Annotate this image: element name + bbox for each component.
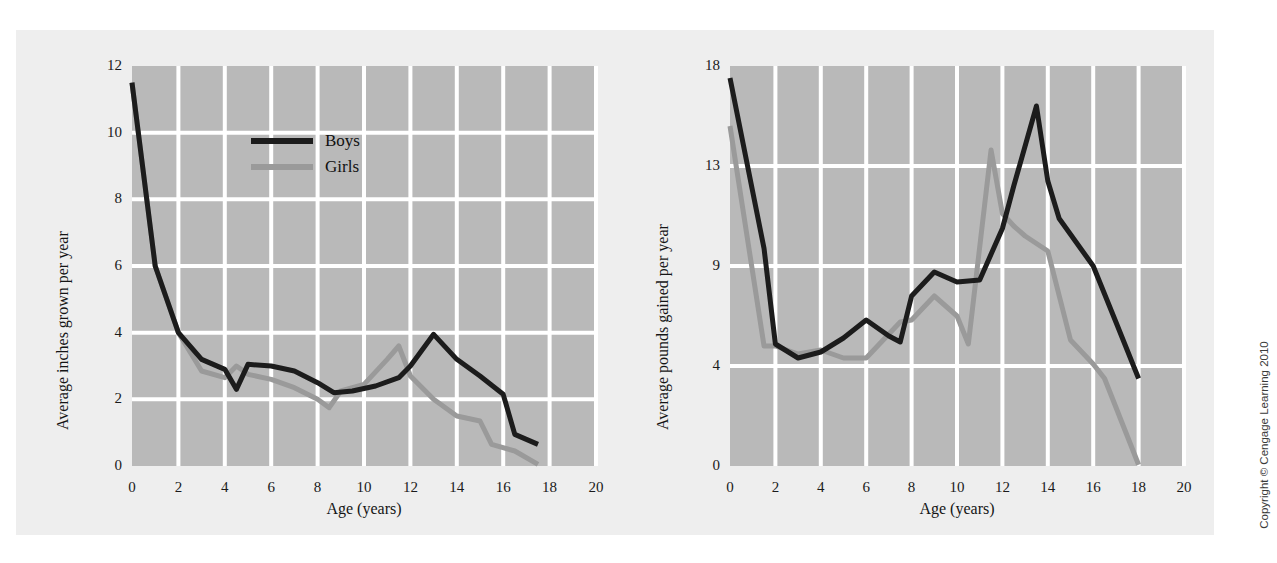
legend-entry-boys: Boys xyxy=(251,128,360,154)
chart-height-velocity: Average inches grown per year Age (years… xyxy=(16,30,616,535)
y-tick-label: 6 xyxy=(84,258,122,273)
y-tick-label: 0 xyxy=(84,458,122,473)
x-tick-label: 14 xyxy=(1028,480,1068,495)
x-tick-label: 10 xyxy=(937,480,977,495)
legend-label-girls: Girls xyxy=(325,157,359,177)
chart-weight-velocity: Average pounds gained per year Age (year… xyxy=(624,30,1214,535)
x-tick-label: 8 xyxy=(892,480,932,495)
x-tick-label: 0 xyxy=(710,480,750,495)
x-tick-label: 20 xyxy=(576,480,616,495)
x-tick-label: 0 xyxy=(112,480,152,495)
x-tick-label: 2 xyxy=(755,480,795,495)
legend-swatch-girls xyxy=(251,164,313,170)
y-tick-label: 10 xyxy=(84,125,122,140)
x-tick-label: 16 xyxy=(483,480,523,495)
y-tick-label: 18 xyxy=(682,58,720,73)
y-tick-label: 4 xyxy=(682,358,720,373)
x-tick-label: 14 xyxy=(437,480,477,495)
x-axis-title-right: Age (years) xyxy=(730,500,1184,518)
legend-swatch-boys xyxy=(251,138,313,144)
x-tick-label: 18 xyxy=(530,480,570,495)
y-tick-label: 8 xyxy=(84,191,122,206)
x-tick-label: 4 xyxy=(801,480,841,495)
x-axis-title-left: Age (years) xyxy=(132,500,596,518)
y-tick-label: 4 xyxy=(84,325,122,340)
y-tick-label: 9 xyxy=(682,258,720,273)
x-tick-label: 10 xyxy=(344,480,384,495)
x-tick-label: 8 xyxy=(298,480,338,495)
y-axis-title-left: Average inches grown per year xyxy=(54,231,72,430)
y-axis-title-right: Average pounds gained per year xyxy=(654,224,672,430)
x-tick-label: 12 xyxy=(390,480,430,495)
x-tick-label: 4 xyxy=(205,480,245,495)
figure-root: Average inches grown per year Age (years… xyxy=(0,0,1277,563)
y-tick-label: 13 xyxy=(682,158,720,173)
copyright-notice: Copyright © Cengage Learning 2010 xyxy=(1255,320,1273,550)
x-tick-label: 18 xyxy=(1119,480,1159,495)
x-tick-label: 16 xyxy=(1073,480,1113,495)
y-tick-label: 2 xyxy=(84,391,122,406)
x-tick-label: 12 xyxy=(982,480,1022,495)
y-tick-label: 12 xyxy=(84,58,122,73)
x-tick-label: 6 xyxy=(846,480,886,495)
x-tick-label: 6 xyxy=(251,480,291,495)
legend-label-boys: Boys xyxy=(325,131,360,151)
figure-panel: Average inches grown per year Age (years… xyxy=(16,30,1214,535)
x-tick-label: 2 xyxy=(158,480,198,495)
x-tick-label: 20 xyxy=(1164,480,1204,495)
legend-left: Boys Girls xyxy=(251,128,360,180)
copyright-text: Copyright © Cengage Learning 2010 xyxy=(1258,341,1270,529)
legend-entry-girls: Girls xyxy=(251,154,360,180)
y-tick-label: 0 xyxy=(682,458,720,473)
